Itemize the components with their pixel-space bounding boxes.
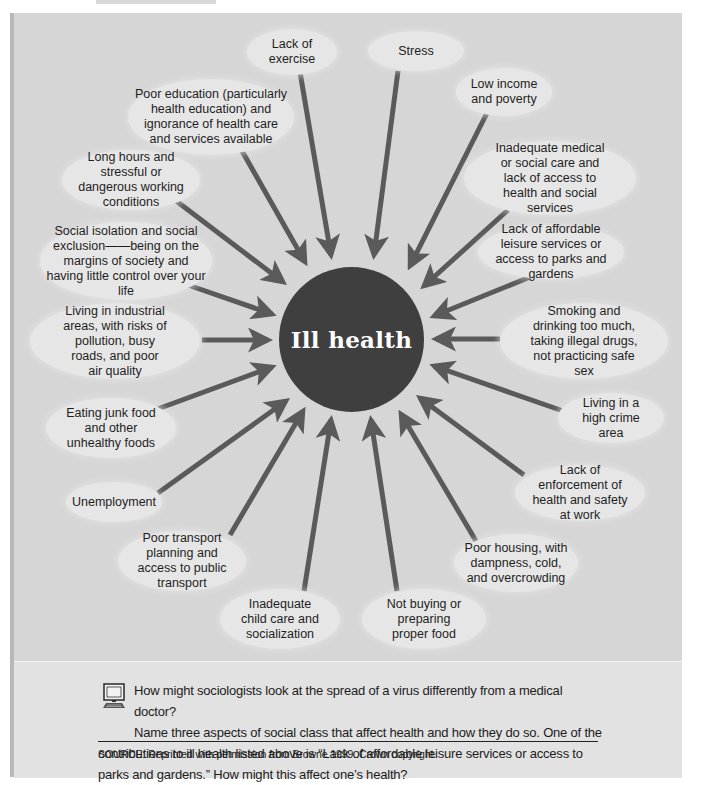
arrow-not-buying-food: [371, 420, 397, 591]
arrow-unemployment: [158, 401, 286, 493]
arrow-junk-food: [155, 367, 272, 410]
cause-poor-education: Poor education (particularly health educ…: [128, 79, 294, 155]
cause-poor-housing: Poor housing, with dampness, cold, and o…: [454, 534, 578, 592]
arrow-stress: [374, 71, 398, 255]
arrow-poor-transport: [230, 411, 303, 535]
arrow-lack-of-enforcement: [420, 398, 524, 475]
cause-lack-of-enforcement: Lack of enforcement of health and safety…: [515, 465, 645, 521]
cause-lack-of-leisure: Lack of affordable leisure services or a…: [478, 225, 624, 279]
cause-unemployment: Unemployment: [66, 482, 162, 522]
cause-inadequate-medical: Inadequate medical or social care and la…: [464, 141, 636, 215]
cause-high-crime: Living in a high crime area: [558, 393, 664, 443]
arrow-lack-of-exercise: [300, 72, 331, 255]
source-credit: SOURCE: Reprinted with permission from B…: [98, 748, 436, 760]
cause-long-hours: Long hours and stressful or dangerous wo…: [62, 150, 200, 210]
cause-social-isolation: Social isolation and social exclusion——b…: [40, 222, 212, 300]
cause-stress: Stress: [368, 31, 464, 71]
arrow-lack-of-leisure: [434, 277, 530, 316]
cause-lack-of-exercise: Lack of exercise: [247, 29, 337, 75]
arrow-inadequate-child-care: [304, 420, 331, 591]
discussion-question: How might sociologists look at the sprea…: [98, 680, 606, 785]
cause-industrial-areas: Living in industrial areas, with risks o…: [30, 303, 200, 379]
question-line-1: How might sociologists look at the sprea…: [98, 680, 606, 722]
center-label: Ill health: [291, 326, 413, 353]
ill-health-center: Ill health: [279, 267, 424, 412]
cause-low-income: Low income and poverty: [456, 68, 552, 116]
cause-inadequate-child-care: Inadequate child care and socialization: [220, 589, 340, 649]
cause-junk-food: Eating junk food and other unhealthy foo…: [46, 398, 176, 458]
cause-smoking-drinking: Smoking and drinking too much, taking il…: [500, 303, 668, 379]
source-divider: [98, 741, 598, 742]
arrow-poor-education: [242, 151, 305, 262]
cause-not-buying-food: Not buying or preparing proper food: [362, 589, 486, 649]
cause-poor-transport: Poor transport planning and access to pu…: [118, 531, 246, 591]
